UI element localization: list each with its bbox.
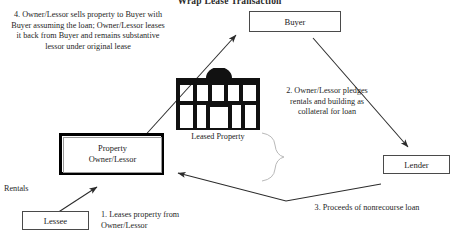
arrow-lender-to-owner <box>178 173 381 201</box>
note-step-4: 4. Owner/Lessor sells property to Buyer … <box>8 10 168 53</box>
note-rentals: Rentals <box>4 184 64 195</box>
node-owner-inner: Property Owner/Lessor <box>63 137 162 173</box>
node-lender-label: Lender <box>404 160 428 170</box>
leased-property-label: Leased Property <box>178 132 258 141</box>
note-step-2: 2. Owner/Lessor pledges rentals and buil… <box>278 86 376 118</box>
note-step-3: 3. Proceeds of nonrecourse loan <box>312 203 422 214</box>
node-buyer[interactable]: Buyer <box>249 11 341 32</box>
leased-property-building-icon <box>176 68 260 130</box>
brace-connector <box>262 133 284 181</box>
node-owner-label-line2: Owner/Lessor <box>89 155 136 166</box>
node-property-owner-lessor[interactable]: Property Owner/Lessor <box>59 133 164 175</box>
node-buyer-label: Buyer <box>284 17 305 27</box>
node-lessee[interactable]: Lessee <box>22 211 89 230</box>
diagram-canvas: Wrap Lease Transaction Buyer Lender Less… <box>0 0 459 246</box>
node-owner-label-line1: Property <box>98 144 127 155</box>
note-step-1: 1. Leases property from Owner/Lessor <box>101 210 206 231</box>
node-lender[interactable]: Lender <box>383 155 450 174</box>
node-lessee-label: Lessee <box>44 216 67 226</box>
